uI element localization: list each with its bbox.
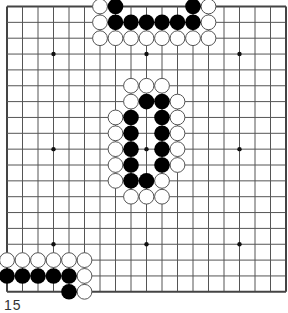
white-stone[interactable] (108, 31, 123, 46)
white-stone[interactable] (170, 126, 185, 141)
white-stone[interactable] (155, 31, 170, 46)
black-stone[interactable] (123, 15, 139, 31)
white-stone[interactable] (124, 78, 139, 93)
black-stone[interactable] (154, 15, 170, 31)
white-stone[interactable] (170, 142, 185, 157)
black-stone[interactable] (154, 141, 170, 157)
white-stone[interactable] (139, 31, 154, 46)
black-stone[interactable] (46, 268, 62, 284)
white-stone[interactable] (186, 31, 201, 46)
white-stone[interactable] (108, 173, 123, 188)
white-stone[interactable] (108, 158, 123, 173)
white-stone[interactable] (62, 253, 77, 268)
black-stone[interactable] (15, 268, 31, 284)
white-stone[interactable] (170, 31, 185, 46)
black-stone[interactable] (139, 15, 155, 31)
star-point (237, 147, 241, 151)
white-stone[interactable] (139, 78, 154, 93)
white-stone[interactable] (93, 15, 108, 30)
white-stone[interactable] (108, 126, 123, 141)
black-stone[interactable] (139, 94, 155, 110)
white-stone[interactable] (170, 94, 185, 109)
white-stone[interactable] (170, 110, 185, 125)
white-stone[interactable] (201, 0, 216, 14)
star-point (51, 147, 55, 151)
star-point (144, 52, 148, 56)
white-stone[interactable] (93, 0, 108, 14)
black-stone[interactable] (123, 141, 139, 157)
white-stone[interactable] (77, 253, 92, 268)
white-stone[interactable] (124, 189, 139, 204)
black-stone[interactable] (139, 173, 155, 189)
black-stone[interactable] (154, 94, 170, 110)
black-stone[interactable] (123, 157, 139, 173)
black-stone[interactable] (154, 110, 170, 126)
white-stone[interactable] (155, 173, 170, 188)
white-stone[interactable] (0, 253, 14, 268)
star-point (144, 147, 148, 151)
black-stone[interactable] (61, 268, 77, 284)
stones-layer (0, 0, 216, 300)
white-stone[interactable] (31, 253, 46, 268)
white-stone[interactable] (155, 78, 170, 93)
white-stone[interactable] (124, 94, 139, 109)
white-stone[interactable] (15, 253, 30, 268)
star-point (51, 242, 55, 246)
black-stone[interactable] (123, 173, 139, 189)
black-stone[interactable] (61, 284, 77, 300)
white-stone[interactable] (108, 142, 123, 157)
star-point (144, 242, 148, 246)
white-stone[interactable] (77, 269, 92, 284)
black-stone[interactable] (154, 126, 170, 142)
white-stone[interactable] (77, 284, 92, 299)
black-stone[interactable] (108, 0, 124, 14)
black-stone[interactable] (30, 268, 46, 284)
diagram-caption: 15 (4, 298, 22, 312)
white-stone[interactable] (124, 31, 139, 46)
white-stone[interactable] (108, 110, 123, 125)
white-stone[interactable] (46, 253, 61, 268)
white-stone[interactable] (155, 189, 170, 204)
black-stone[interactable] (0, 268, 15, 284)
white-stone[interactable] (139, 189, 154, 204)
white-stone[interactable] (201, 15, 216, 30)
star-point (237, 52, 241, 56)
black-stone[interactable] (170, 15, 186, 31)
black-stone[interactable] (185, 15, 201, 31)
star-point (237, 242, 241, 246)
white-stone[interactable] (170, 158, 185, 173)
black-stone[interactable] (108, 15, 124, 31)
white-stone[interactable] (201, 31, 216, 46)
star-point (51, 52, 55, 56)
black-stone[interactable] (123, 126, 139, 142)
black-stone[interactable] (123, 110, 139, 126)
black-stone[interactable] (185, 0, 201, 14)
white-stone[interactable] (93, 31, 108, 46)
black-stone[interactable] (154, 157, 170, 173)
